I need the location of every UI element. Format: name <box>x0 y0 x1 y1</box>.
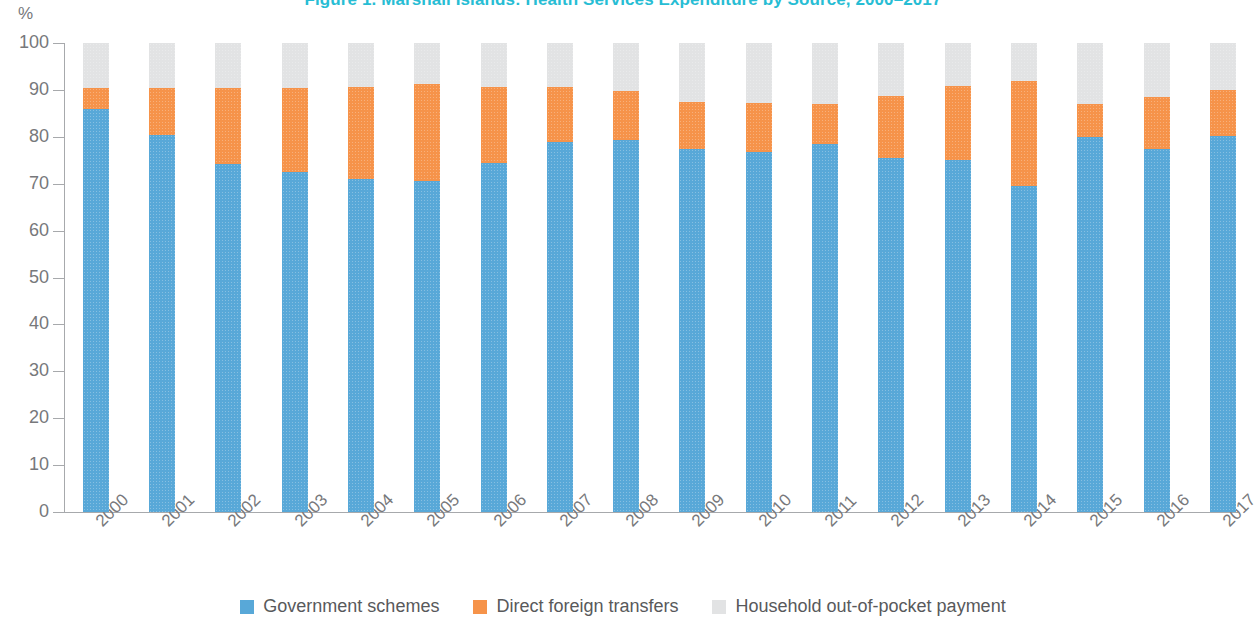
bar-segment[interactable] <box>149 43 175 88</box>
bar-segment[interactable] <box>1144 149 1170 512</box>
texture-overlay <box>149 135 175 512</box>
texture-overlay <box>348 87 374 179</box>
bar-segment[interactable] <box>83 109 109 512</box>
texture-overlay <box>547 43 573 87</box>
stacked-bar[interactable] <box>282 43 308 512</box>
legend-item-household-out-of-pocket[interactable]: Household out-of-pocket payment <box>712 596 1005 617</box>
y-axis-unit-label: % <box>18 4 33 24</box>
bar-segment[interactable] <box>547 142 573 513</box>
stacked-bar[interactable] <box>149 43 175 512</box>
bar-segment[interactable] <box>878 43 904 96</box>
y-axis-tick-label: 70 <box>5 174 49 192</box>
y-axis-tick-label: 90 <box>5 80 49 98</box>
bar-segment[interactable] <box>746 103 772 152</box>
bar-segment[interactable] <box>547 43 573 87</box>
stacked-bar[interactable] <box>1077 43 1103 512</box>
bar-segment[interactable] <box>679 149 705 512</box>
legend-label: Direct foreign transfers <box>496 596 678 617</box>
bar-segment[interactable] <box>414 84 440 182</box>
stacked-bar[interactable] <box>812 43 838 512</box>
stacked-bar[interactable] <box>1144 43 1170 512</box>
bar-segment[interactable] <box>945 160 971 512</box>
bar-segment[interactable] <box>282 88 308 172</box>
bar-segment[interactable] <box>679 102 705 150</box>
stacked-bar[interactable] <box>547 43 573 512</box>
bar-segment[interactable] <box>1077 104 1103 138</box>
texture-overlay <box>481 43 507 87</box>
bar-segment[interactable] <box>215 88 241 164</box>
bar-segment[interactable] <box>1077 43 1103 104</box>
texture-overlay <box>746 43 772 103</box>
bar-segment[interactable] <box>1144 43 1170 97</box>
bar-segment[interactable] <box>215 43 241 88</box>
bar-segment[interactable] <box>1011 81 1037 186</box>
bar-segment[interactable] <box>1144 97 1170 149</box>
legend-item-government-schemes[interactable]: Government schemes <box>240 596 439 617</box>
stacked-bar[interactable] <box>481 43 507 512</box>
y-axis-tick-label: 40 <box>5 314 49 332</box>
stacked-bar[interactable] <box>878 43 904 512</box>
bar-segment[interactable] <box>812 104 838 144</box>
bar-segment[interactable] <box>481 43 507 87</box>
texture-overlay <box>215 164 241 512</box>
bar-segment[interactable] <box>746 43 772 103</box>
bar-segment[interactable] <box>679 43 705 102</box>
bar-segment[interactable] <box>1210 43 1236 90</box>
y-axis-tick <box>53 371 64 372</box>
bar-segment[interactable] <box>348 179 374 512</box>
bar-segment[interactable] <box>613 91 639 140</box>
texture-overlay <box>215 43 241 88</box>
bar-segment[interactable] <box>1210 136 1236 512</box>
bar-segment[interactable] <box>282 172 308 512</box>
bar-segment[interactable] <box>878 96 904 158</box>
bar-segment[interactable] <box>282 43 308 88</box>
texture-overlay <box>1077 104 1103 138</box>
bar-segment[interactable] <box>1011 186 1037 512</box>
bar-segment[interactable] <box>746 152 772 512</box>
bar-segment[interactable] <box>812 43 838 104</box>
legend-swatch-icon <box>712 600 726 614</box>
bar-segment[interactable] <box>414 181 440 512</box>
stacked-bar[interactable] <box>414 43 440 512</box>
bar-segment[interactable] <box>878 158 904 512</box>
bar-segment[interactable] <box>1011 43 1037 81</box>
stacked-bar[interactable] <box>613 43 639 512</box>
texture-overlay <box>83 43 109 88</box>
bar-segment[interactable] <box>348 43 374 87</box>
stacked-bar[interactable] <box>746 43 772 512</box>
bar-segment[interactable] <box>1210 90 1236 136</box>
stacked-bar[interactable] <box>679 43 705 512</box>
bar-segment[interactable] <box>812 144 838 512</box>
texture-overlay <box>414 43 440 84</box>
bar-segment[interactable] <box>348 87 374 179</box>
texture-overlay <box>547 142 573 513</box>
bar-segment[interactable] <box>215 164 241 512</box>
texture-overlay <box>746 152 772 512</box>
legend-item-direct-foreign-transfers[interactable]: Direct foreign transfers <box>473 596 678 617</box>
bar-segment[interactable] <box>481 163 507 512</box>
bar-segment[interactable] <box>414 43 440 84</box>
texture-overlay <box>746 103 772 152</box>
bar-segment[interactable] <box>613 43 639 91</box>
bar-segment[interactable] <box>613 140 639 512</box>
texture-overlay <box>282 88 308 172</box>
stacked-bar[interactable] <box>83 43 109 512</box>
bar-segment[interactable] <box>1077 137 1103 512</box>
bar-segment[interactable] <box>945 43 971 86</box>
stacked-bar[interactable] <box>215 43 241 512</box>
bar-segment[interactable] <box>547 87 573 141</box>
texture-overlay <box>1210 90 1236 136</box>
bar-segment[interactable] <box>149 88 175 136</box>
stacked-bar[interactable] <box>945 43 971 512</box>
stacked-bar[interactable] <box>1210 43 1236 512</box>
bar-segment[interactable] <box>945 86 971 161</box>
bar-segment[interactable] <box>83 88 109 109</box>
stacked-bar[interactable] <box>348 43 374 512</box>
texture-overlay <box>1077 137 1103 512</box>
texture-overlay <box>613 43 639 91</box>
bar-segment[interactable] <box>481 87 507 163</box>
bar-segment[interactable] <box>149 135 175 512</box>
bar-segment[interactable] <box>83 43 109 88</box>
stacked-bar[interactable] <box>1011 43 1037 512</box>
